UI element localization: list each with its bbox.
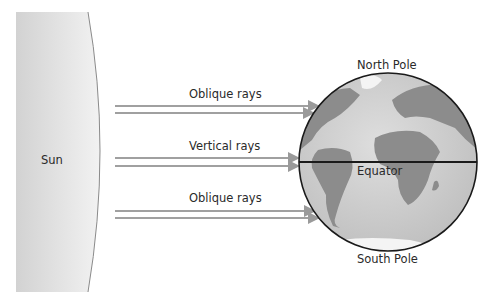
sun-label: Sun bbox=[41, 153, 63, 167]
vertical-rays bbox=[115, 158, 298, 166]
south-pole-label: South Pole bbox=[357, 252, 418, 266]
ray-label-top: Oblique rays bbox=[189, 87, 262, 101]
ray-label-bottom: Oblique rays bbox=[189, 191, 262, 205]
sun-shape bbox=[16, 12, 100, 292]
oblique-rays-top bbox=[115, 106, 318, 113]
equator-label: Equator bbox=[357, 164, 402, 178]
earth-globe bbox=[299, 73, 480, 252]
oblique-rays-bottom bbox=[115, 211, 318, 218]
ray-label-middle: Vertical rays bbox=[189, 139, 260, 153]
north-pole-label: North Pole bbox=[357, 58, 417, 72]
